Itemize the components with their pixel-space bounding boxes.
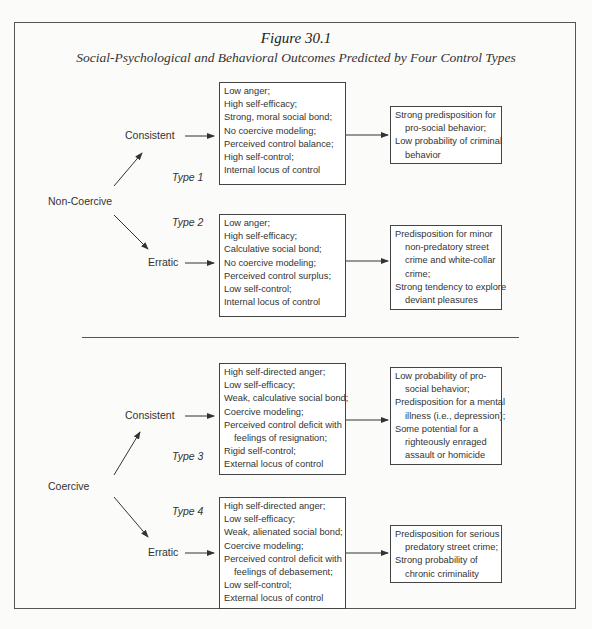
- trait: High self-efficacy;: [224, 230, 341, 243]
- trait: High self-directed anger;: [224, 500, 341, 513]
- outcome: righteously enraged: [395, 436, 497, 449]
- outcome: crime and white-collar: [395, 254, 497, 267]
- type-label-3: Type 3: [172, 450, 203, 462]
- traits-box-type2: Low anger; High self-efficacy; Calculati…: [219, 214, 346, 317]
- outcome: deviant pleasures: [395, 294, 497, 307]
- outcome: social behavior;: [395, 383, 497, 396]
- traits-box-type3: High self-directed anger; Low self-effic…: [219, 363, 346, 475]
- trait: feelings of resignation;: [224, 432, 341, 445]
- trait: External locus of control: [224, 458, 341, 471]
- traits-box-type4: High self-directed anger; Low self-effic…: [219, 497, 346, 609]
- group-label-coercive: Coercive: [48, 480, 89, 492]
- outcome: predatory street crime;: [395, 541, 497, 554]
- trait: Weak, calculative social bond;: [224, 392, 341, 405]
- outcome-box-type1: Strong predisposition for pro-social beh…: [390, 106, 502, 164]
- arrow-noncoercive-consistent-icon: [114, 153, 142, 186]
- branch-label-consistent: Consistent: [125, 129, 175, 141]
- outcome-box-type4: Predisposition for serious predatory str…: [390, 525, 502, 583]
- outcome-box-type2: Predisposition for minor non-predatory s…: [390, 225, 502, 310]
- outcome: Strong tendency to explore: [395, 281, 497, 294]
- trait: Rigid self-control;: [224, 445, 341, 458]
- trait: High self-directed anger;: [224, 366, 341, 379]
- trait: Perceived control surplus;: [224, 270, 341, 283]
- outcome: crime;: [395, 268, 497, 281]
- trait: Internal locus of control: [224, 164, 341, 177]
- trait: High self-efficacy;: [224, 98, 341, 111]
- group-label-noncoercive: Non-Coercive: [48, 195, 112, 207]
- type-label-2: Type 2: [172, 216, 203, 228]
- trait: Low self-efficacy;: [224, 379, 341, 392]
- trait: Low self-efficacy;: [224, 513, 341, 526]
- trait: Perceived control deficit with: [224, 419, 341, 432]
- trait: External locus of control: [224, 592, 341, 605]
- trait: Strong, moral social bond;: [224, 111, 341, 124]
- trait: No coercive modeling;: [224, 257, 341, 270]
- trait: Low anger;: [224, 85, 341, 98]
- trait: Low anger;: [224, 217, 341, 230]
- trait: Low self-control;: [224, 579, 341, 592]
- arrow-noncoercive-erratic-icon: [114, 215, 148, 249]
- traits-box-type1: Low anger; High self-efficacy; Strong, m…: [219, 82, 346, 185]
- outcome: Predisposition for a mental: [395, 396, 497, 409]
- outcome: assault or homicide: [395, 449, 497, 462]
- trait: Low self-control;: [224, 283, 341, 296]
- outcome: Strong probability of: [395, 554, 497, 567]
- outcome: Predisposition for minor: [395, 228, 497, 241]
- trait: Perceived control balance;: [224, 138, 341, 151]
- outcome: non-predatory street: [395, 241, 497, 254]
- outcome: Strong predisposition for: [395, 109, 497, 122]
- outcome-box-type3: Low probability of pro- social behavior;…: [390, 367, 502, 465]
- outcome: Low probability of pro-: [395, 370, 497, 383]
- branch-label-erratic: Erratic: [148, 256, 178, 268]
- outcome: Predisposition for serious: [395, 528, 497, 541]
- outcome: pro-social behavior;: [395, 122, 497, 135]
- section-divider: [82, 337, 519, 338]
- trait: Perceived control deficit with: [224, 553, 341, 566]
- trait: Coercive modeling;: [224, 540, 341, 553]
- type-label-4: Type 4: [172, 505, 203, 517]
- trait: Coercive modeling;: [224, 406, 341, 419]
- trait: High self-control;: [224, 151, 341, 164]
- outcome: illness (i.e., depression);: [395, 410, 497, 423]
- outcome: behavior: [395, 149, 497, 162]
- trait: feelings of debasement;: [224, 566, 341, 579]
- trait: Internal locus of control: [224, 296, 341, 309]
- trait: Calculative social bond;: [224, 243, 341, 256]
- trait: Weak, alienated social bond;: [224, 526, 341, 539]
- outcome: chronic criminality: [395, 568, 497, 581]
- trait: No coercive modeling;: [224, 125, 341, 138]
- outcome: Low probability of criminal: [395, 135, 497, 148]
- branch-label-erratic: Erratic: [148, 546, 178, 558]
- branch-label-consistent: Consistent: [125, 409, 175, 421]
- type-label-1: Type 1: [172, 171, 203, 183]
- outcome: Some potential for a: [395, 423, 497, 436]
